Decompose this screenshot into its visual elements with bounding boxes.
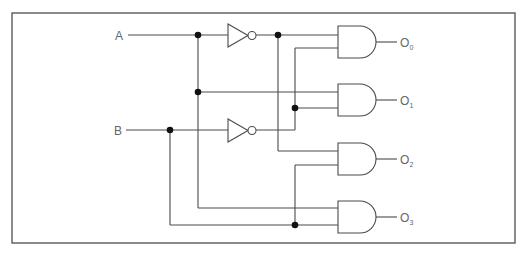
input-label-a: A (115, 29, 123, 43)
input-label-b: B (114, 124, 122, 138)
and-gate-2 (338, 143, 397, 175)
junction-dot (292, 222, 299, 229)
junction-dot (292, 105, 299, 112)
svg-text:O: O (400, 36, 409, 50)
decoder-circuit-diagram: A B (0, 0, 521, 254)
and-gate-3 (338, 201, 397, 233)
wire-b-not (256, 48, 338, 130)
svg-text:0: 0 (410, 44, 414, 51)
wire-a-not (256, 35, 338, 151)
output-label-o3: O 3 (400, 211, 414, 226)
svg-text:3: 3 (410, 219, 414, 226)
output-label-o2: O 2 (400, 153, 414, 168)
junction-dot (195, 32, 202, 39)
svg-text:O: O (400, 211, 409, 225)
output-label-o1: O 1 (400, 94, 414, 109)
output-label-o0: O 0 (400, 36, 414, 51)
svg-text:2: 2 (410, 161, 414, 168)
junction-dot (195, 89, 202, 96)
junction-dot (167, 127, 174, 134)
svg-text:O: O (400, 94, 409, 108)
inverter-b (228, 119, 256, 142)
wire-b-lower (295, 165, 338, 225)
junction-dot (275, 32, 282, 39)
inverter-a (228, 24, 256, 47)
wire-b (126, 130, 338, 225)
svg-text:1: 1 (410, 102, 414, 109)
svg-text:O: O (400, 153, 409, 167)
and-gate-1 (338, 84, 397, 116)
and-gate-0 (338, 26, 397, 58)
